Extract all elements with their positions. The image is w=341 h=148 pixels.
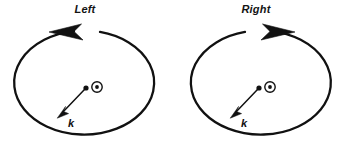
k-vector-label-left: k (68, 117, 75, 129)
k-vector-right (230, 85, 261, 118)
rotation-ellipse-left (14, 31, 154, 134)
panel-left-diagram: k (0, 0, 170, 148)
rotation-ellipse-right (191, 31, 331, 134)
panel-right-diagram: k (171, 0, 341, 148)
rotation-arrowhead-left (49, 24, 83, 40)
k-vector-shaft-right (236, 89, 259, 113)
panel-right: Right k (171, 0, 341, 148)
k-vector-shaft-left (63, 89, 86, 113)
figure-root: Left k R (0, 0, 341, 148)
circle-dot-icon-right (265, 82, 275, 92)
k-vector-left (57, 85, 88, 118)
k-vector-label-right: k (241, 117, 248, 129)
circle-dot-icon-left (92, 82, 102, 92)
panel-left: Left k (0, 0, 170, 148)
rotation-arrowhead-right (261, 24, 295, 40)
